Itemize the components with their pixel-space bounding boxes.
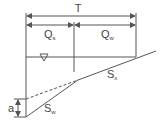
qs-label: Qs	[44, 28, 56, 41]
gutter-cross-section-diagram: T Qs Qw Sx Sw a	[0, 0, 164, 126]
a-label: a	[8, 102, 15, 114]
qw-label: Qw	[101, 28, 115, 41]
sx-label: Sx	[107, 68, 117, 81]
projected-slope-line	[26, 80, 78, 99]
sw-label: Sw	[44, 102, 56, 115]
t-label: T	[75, 2, 82, 14]
